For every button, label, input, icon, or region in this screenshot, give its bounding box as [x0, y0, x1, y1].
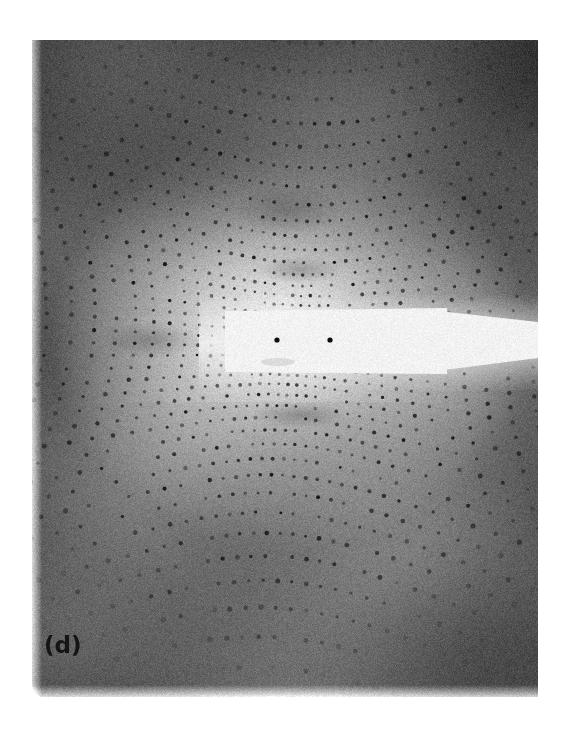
figure-root: (d): [0, 0, 566, 733]
diffraction-plate: [32, 40, 538, 697]
diffraction-pattern-canvas: [32, 40, 538, 697]
panel-label: (d): [44, 634, 82, 657]
